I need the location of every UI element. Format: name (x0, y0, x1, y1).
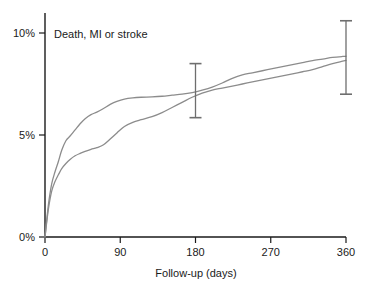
x-tick-label: 0 (42, 246, 48, 258)
chart-figure: 0%5%10% 090180270360 Death, MI or stroke… (0, 0, 369, 292)
x-tick-label: 180 (186, 246, 204, 258)
x-tick-label: 90 (114, 246, 126, 258)
y-tick-label: 10% (13, 27, 35, 39)
y-axis-ticks: 0%5%10% (13, 27, 45, 243)
panel-annotation-label: Death, MI or stroke (54, 28, 148, 40)
y-tick-label: 0% (19, 231, 35, 243)
x-tick-label: 270 (262, 246, 280, 258)
y-tick-label: 5% (19, 129, 35, 141)
errorbar-360 (340, 21, 352, 94)
axes-group (45, 13, 346, 237)
x-axis-ticks: 090180270360 (42, 237, 355, 258)
x-axis-title: Follow-up (days) (155, 267, 236, 279)
x-tick-label: 360 (337, 246, 355, 258)
kaplan-meier-chart: 0%5%10% 090180270360 Death, MI or stroke… (0, 0, 369, 292)
